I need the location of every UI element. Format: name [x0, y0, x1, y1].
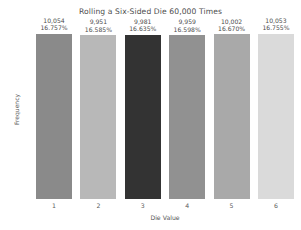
x-axis-tick-labels: 123456 [36, 202, 294, 209]
bar-chart-figure: Rolling a Six-Sided Die 60,000 Times Fre… [0, 0, 301, 230]
bar-count-label: 10,053 [250, 17, 301, 24]
x-axis-tick-4: 4 [169, 202, 205, 209]
x-axis-tick-1: 1 [36, 202, 72, 209]
bar-slot: 9,95916.598% [169, 18, 205, 199]
bar-2[interactable] [80, 35, 116, 199]
bar-1[interactable] [36, 34, 72, 199]
x-axis-tick-6: 6 [258, 202, 294, 209]
bar-series: 10,05416.757%9,95116.585%9,98116.635%9,9… [36, 18, 294, 199]
x-axis-tick-3: 3 [125, 202, 161, 209]
bar-percent-label: 16.755% [250, 24, 301, 31]
bar-value-label: 10,05316.755% [250, 17, 301, 32]
bar-slot: 10,05316.755% [258, 18, 294, 199]
bar-3[interactable] [125, 35, 161, 199]
bar-6[interactable] [258, 34, 294, 199]
y-axis-label: Frequency [13, 80, 20, 140]
x-axis-label: Die Value [36, 214, 294, 221]
bar-slot: 9,95116.585% [80, 18, 116, 199]
bar-slot: 9,98116.635% [125, 18, 161, 199]
plot-area: 0200040006000800010000 10,05416.757%9,95… [36, 18, 294, 199]
bar-5[interactable] [214, 34, 250, 199]
x-axis-tick-5: 5 [214, 202, 250, 209]
bar-slot: 10,00216.670% [214, 18, 250, 199]
bar-slot: 10,05416.757% [36, 18, 72, 199]
bar-4[interactable] [169, 35, 205, 199]
chart-title: Rolling a Six-Sided Die 60,000 Times [0, 7, 301, 16]
x-axis-tick-2: 2 [80, 202, 116, 209]
